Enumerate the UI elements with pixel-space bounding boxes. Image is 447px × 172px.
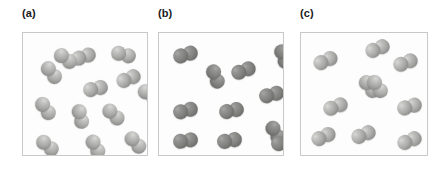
molecule — [32, 94, 59, 123]
molecule — [70, 103, 91, 131]
molecule — [349, 123, 378, 146]
panel-label-c: (c) — [300, 6, 314, 20]
molecule — [321, 95, 350, 118]
molecule — [272, 42, 284, 71]
atom-sphere — [272, 42, 284, 61]
panel-label-b: (b) — [158, 6, 172, 20]
panel-label-a: (a) — [22, 6, 36, 20]
molecule — [82, 79, 110, 99]
panel-c — [300, 32, 428, 156]
molecular-density-figure: (a)(b)(c) — [0, 0, 447, 172]
molecule — [172, 131, 199, 149]
molecule — [110, 44, 138, 65]
molecule — [99, 100, 127, 128]
molecule — [135, 81, 148, 107]
atom-sphere — [135, 81, 148, 102]
molecule — [83, 132, 108, 156]
molecule — [391, 51, 420, 74]
molecule — [171, 44, 199, 65]
molecule — [216, 131, 243, 150]
molecule — [395, 129, 424, 152]
molecule — [33, 132, 62, 156]
molecule — [218, 101, 246, 121]
molecule — [229, 59, 258, 82]
panel-a — [22, 32, 148, 156]
atom-sphere — [270, 135, 284, 153]
molecule — [204, 62, 227, 91]
molecule — [363, 37, 392, 60]
molecule — [258, 84, 284, 105]
molecule — [172, 100, 200, 121]
molecule — [395, 96, 423, 117]
molecule — [309, 125, 338, 149]
molecule — [122, 128, 148, 156]
panel-b — [158, 32, 284, 156]
molecule — [311, 49, 340, 73]
